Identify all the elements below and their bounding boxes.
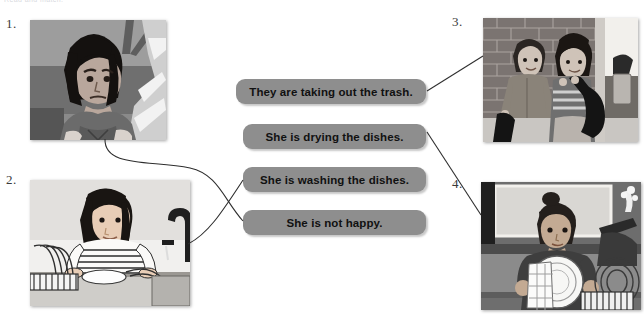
panel-number-3: 3.	[452, 14, 463, 30]
answer-bubble-4-text: She is not happy.	[286, 217, 382, 229]
illustration-washing-dishes	[30, 180, 190, 306]
answer-bubble-2[interactable]: She is drying the dishes.	[243, 124, 426, 149]
answer-bubble-1-text: They are taking out the trash.	[249, 86, 412, 98]
panel-image-2[interactable]	[30, 180, 190, 306]
answer-bubble-1[interactable]: They are taking out the trash.	[236, 79, 426, 104]
illustration-taking-out-trash	[483, 18, 638, 142]
connector-bubble2-to-panel4	[427, 132, 481, 215]
panel-number-1: 1.	[6, 16, 17, 32]
answer-bubble-3[interactable]: She is washing the dishes.	[243, 167, 426, 192]
instruction-text: Read and match.	[4, 0, 63, 3]
panel-number-2: 2.	[6, 172, 17, 188]
panel-image-1[interactable]	[30, 20, 166, 140]
illustration-unhappy-girl	[30, 20, 166, 140]
worksheet-page: Read and match. 1.	[0, 0, 644, 314]
answer-bubble-2-text: She is drying the dishes.	[266, 131, 404, 143]
panel-image-3[interactable]	[483, 18, 638, 142]
connector-panel2-to-bubble3	[188, 180, 243, 244]
panel-image-4[interactable]	[481, 182, 641, 310]
answer-bubble-3-text: She is washing the dishes.	[260, 174, 409, 186]
panel-number-4: 4.	[452, 176, 463, 192]
connector-bubble1-to-panel3	[427, 56, 483, 91]
illustration-drying-dishes	[481, 182, 641, 310]
answer-bubble-4[interactable]: She is not happy.	[243, 210, 426, 235]
